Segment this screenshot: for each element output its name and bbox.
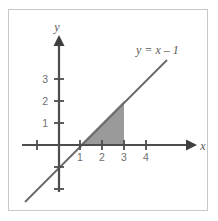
- x-tick-label-1: 1: [77, 151, 83, 163]
- x-tick-label-3: 3: [121, 151, 127, 163]
- x-axis-label: x: [199, 139, 206, 153]
- x-tick-label-2: 2: [99, 151, 105, 163]
- y-tick-label-1: 1: [42, 117, 48, 129]
- x-axis-arrow-icon: [186, 140, 197, 151]
- y-axis-label: y: [53, 20, 60, 34]
- y-tick-label-2: 2: [42, 95, 48, 107]
- y-axis-arrow-icon: [54, 35, 65, 46]
- equation-label: y = x – 1: [135, 43, 179, 57]
- y-tick-label-3: 3: [42, 73, 48, 85]
- figure-root: 1 2 3 4 1 2 3 y x y = x – 1: [0, 0, 218, 221]
- coordinate-plot: 1 2 3 4 1 2 3 y x y = x – 1: [0, 0, 218, 221]
- shaded-region-triangle: [80, 101, 124, 145]
- x-tick-label-4: 4: [143, 151, 149, 163]
